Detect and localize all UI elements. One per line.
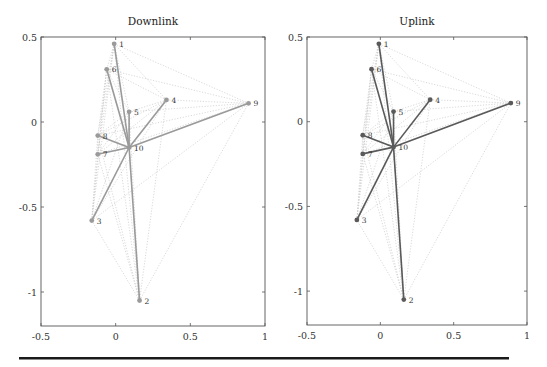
panel-uplink: Uplink12345678910-0.500.510.50-0.5-1: [285, 15, 530, 341]
y-tick-label: 0: [31, 117, 37, 128]
weak-edge: [92, 221, 140, 301]
weak-edge: [430, 100, 511, 103]
weak-edge: [98, 69, 107, 154]
axes-box: [41, 37, 265, 326]
x-tick-label: 1: [262, 331, 268, 342]
node-label: 6: [112, 65, 117, 74]
figure-canvas: Downlink12345678910-0.500.510.50-0.5-1Up…: [0, 0, 547, 367]
y-tick-label: -1: [28, 287, 37, 298]
node-label: 1: [384, 40, 389, 49]
weak-edge: [92, 103, 249, 220]
node-label: 1: [119, 40, 124, 49]
strong-edge: [129, 148, 139, 301]
weak-edge: [98, 44, 114, 136]
node-3: [89, 218, 94, 223]
node-label: 5: [134, 108, 139, 117]
node-7: [95, 152, 100, 157]
node-10: [127, 145, 132, 150]
node-2: [401, 297, 406, 302]
figure-bottom-rule: [19, 357, 509, 360]
node-label: 6: [377, 65, 382, 74]
node-2: [137, 298, 142, 303]
node-8: [95, 133, 100, 138]
node-8: [360, 133, 365, 138]
node-6: [104, 67, 109, 72]
weak-edge: [372, 69, 511, 103]
weak-edge: [363, 100, 430, 136]
y-tick-label: 0.5: [288, 32, 303, 43]
weak-edge: [98, 100, 167, 136]
node-label: 8: [368, 131, 373, 140]
node-label: 8: [103, 132, 108, 141]
strong-edge: [114, 44, 129, 148]
weak-edge: [404, 103, 511, 300]
node-10: [391, 145, 396, 150]
panel-title: Uplink: [399, 15, 435, 27]
node-label: 9: [254, 99, 259, 108]
weak-edge: [114, 44, 139, 301]
x-tick-label: 0.5: [446, 330, 461, 341]
weak-edge: [379, 44, 511, 103]
node-3: [354, 218, 359, 223]
weak-edge: [379, 44, 404, 300]
node-label: 4: [171, 96, 176, 105]
node-label: 3: [97, 217, 102, 226]
node-label: 10: [399, 143, 409, 152]
node-label: 9: [516, 99, 521, 108]
strong-edge: [379, 44, 394, 147]
y-tick-label: -0.5: [285, 201, 303, 212]
node-label: 7: [368, 150, 373, 159]
node-4: [164, 98, 169, 103]
node-label: 2: [409, 296, 414, 305]
node-4: [428, 97, 433, 102]
panel-title: Downlink: [128, 15, 179, 27]
y-tick-label: 0.5: [22, 32, 37, 43]
weak-edge: [379, 44, 430, 100]
weak-edge: [357, 103, 511, 220]
x-tick-label: 1: [524, 330, 530, 341]
node-9: [508, 101, 513, 106]
x-tick-label: -0.5: [298, 330, 316, 341]
node-label: 10: [134, 144, 144, 153]
strong-edge: [394, 147, 404, 299]
weak-edge: [98, 154, 140, 300]
weak-edge: [107, 69, 129, 112]
node-label: 5: [399, 108, 404, 117]
node-9: [246, 101, 251, 106]
x-tick-label: -0.5: [32, 331, 50, 342]
panel-downlink: Downlink12345678910-0.500.510.50-0.5-1: [19, 15, 268, 342]
weak-edge: [107, 69, 249, 103]
weak-edge: [114, 44, 166, 100]
weak-edge: [140, 103, 249, 300]
axes-box: [307, 37, 527, 325]
x-tick-label: 0.5: [183, 331, 198, 342]
weak-edge: [357, 220, 404, 300]
x-tick-label: 0: [377, 330, 383, 341]
node-5: [127, 109, 132, 114]
node-label: 4: [435, 96, 440, 105]
node-7: [360, 151, 365, 156]
weak-edge: [372, 69, 394, 111]
node-1: [376, 41, 381, 46]
node-label: 2: [145, 297, 150, 306]
y-tick-label: 0: [297, 116, 303, 127]
weak-edge: [166, 100, 248, 103]
y-tick-label: -0.5: [19, 202, 37, 213]
weak-edge: [114, 44, 248, 104]
node-label: 3: [362, 216, 367, 225]
y-tick-label: -1: [294, 286, 303, 297]
weak-edge: [363, 154, 404, 300]
node-5: [391, 109, 396, 114]
node-label: 7: [103, 150, 108, 159]
node-1: [112, 41, 117, 46]
x-tick-label: 0: [113, 331, 119, 342]
node-6: [369, 67, 374, 72]
